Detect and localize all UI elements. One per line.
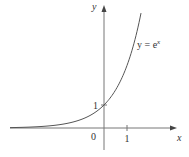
curve-label: y = ex bbox=[137, 38, 161, 50]
exp-curve bbox=[10, 13, 141, 128]
x-tick-label-1: 1 bbox=[125, 133, 130, 144]
x-axis-arrow-icon bbox=[170, 126, 177, 131]
exponential-graph: y x 0 1 1 y = ex bbox=[0, 0, 189, 157]
origin-label: 0 bbox=[91, 131, 96, 142]
y-axis-label: y bbox=[91, 1, 97, 12]
y-axis-arrow-icon bbox=[102, 5, 107, 12]
y-tick-label-1: 1 bbox=[93, 100, 98, 111]
x-axis-label: x bbox=[176, 132, 182, 143]
